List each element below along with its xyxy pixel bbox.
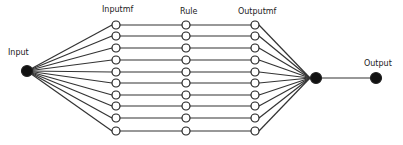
inputmf-node [112, 32, 120, 40]
outputmf-node [251, 32, 259, 40]
inputmf-node [112, 68, 120, 76]
outputmf-node [251, 56, 259, 64]
anfis-diagram: Input Inputmf Rule Outputmf Output [0, 0, 403, 145]
label-output: Output [364, 59, 392, 68]
diagram-svg: Input Inputmf Rule Outputmf Output [0, 0, 403, 145]
inputmf-node [112, 114, 120, 122]
rule-node [182, 102, 190, 110]
inputmf-node [112, 56, 120, 64]
rule-node [182, 114, 190, 122]
rule-node [182, 56, 190, 64]
label-rule: Rule [180, 7, 197, 16]
outputmf-node [251, 21, 259, 29]
inputmf-node [112, 102, 120, 110]
label-input: Input [8, 48, 29, 57]
input-node [22, 66, 33, 77]
rule-node [182, 68, 190, 76]
rule-node [182, 91, 190, 99]
inputmf-node [112, 91, 120, 99]
outputmf-node [251, 91, 259, 99]
outputmf-node [251, 102, 259, 110]
outputmf-node [251, 114, 259, 122]
rule-node [182, 44, 190, 52]
rule-node [182, 32, 190, 40]
rule-node [182, 21, 190, 29]
inputmf-node [112, 44, 120, 52]
outputmf-node [251, 68, 259, 76]
inputmf-node [112, 21, 120, 29]
inputmf-node [112, 79, 120, 87]
outputmf-node [251, 79, 259, 87]
label-outputmf: Outputmf [238, 7, 277, 16]
rule-node [182, 127, 190, 135]
rule-node [182, 79, 190, 87]
label-inputmf: Inputmf [102, 5, 134, 14]
outputmf-node [251, 44, 259, 52]
aggregation-node [311, 73, 322, 84]
inputmf-node [112, 127, 120, 135]
output-node [371, 73, 382, 84]
outputmf-node [251, 127, 259, 135]
